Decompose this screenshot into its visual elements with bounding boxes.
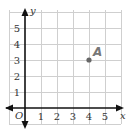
point-a bbox=[86, 57, 91, 62]
tick-labels: xyO1234512345 bbox=[14, 5, 126, 122]
y-tick-label: 3 bbox=[14, 55, 20, 66]
x-tick-label: 1 bbox=[38, 111, 44, 122]
x-tick-label: 3 bbox=[70, 111, 76, 122]
y-tick-label: 2 bbox=[14, 71, 20, 82]
x-tick-label: 4 bbox=[86, 111, 92, 122]
y-tick-label: 4 bbox=[14, 39, 20, 50]
x-axis-label: x bbox=[120, 110, 126, 121]
origin-label: O bbox=[15, 110, 23, 121]
data-points: A bbox=[86, 45, 102, 63]
coordinate-plane: xyO1234512345 A bbox=[0, 0, 132, 132]
y-tick-label: 1 bbox=[14, 87, 20, 98]
x-tick-label: 2 bbox=[54, 111, 60, 122]
point-label-a: A bbox=[92, 45, 102, 59]
y-axis-label: y bbox=[29, 5, 36, 16]
y-tick-label: 5 bbox=[14, 23, 20, 34]
x-tick-label: 5 bbox=[102, 111, 108, 122]
